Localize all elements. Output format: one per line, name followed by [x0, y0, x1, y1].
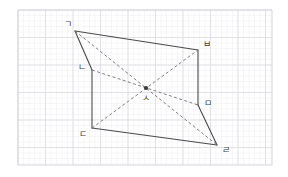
vertex-label-B: ㄴ: [78, 62, 86, 72]
vertex-label-C: ㄷ: [79, 129, 87, 139]
vertex-label-D: ㄹ: [222, 145, 230, 155]
edge-mieum-rieul: [198, 105, 217, 145]
geometry-diagram: ㄱㄴㄷㄹㅁㅂㅅ: [0, 0, 288, 177]
vertex-label-E: ㅁ: [204, 98, 212, 108]
figure-root: ㄱㄴㄷㄹㅁㅂㅅ: [0, 0, 288, 177]
center-point-siot: [144, 86, 148, 90]
vertex-label-F: ㅂ: [203, 39, 211, 49]
edge-gieuk-bieup: [75, 31, 198, 50]
center-point-group: [144, 86, 148, 90]
vertex-label-O: ㅅ: [142, 93, 150, 103]
vertex-label-A: ㄱ: [64, 19, 72, 29]
